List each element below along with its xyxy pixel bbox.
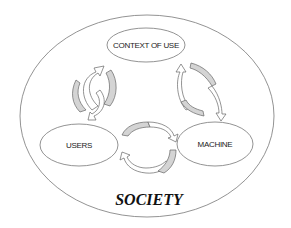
society-label: SOCIETY	[115, 191, 184, 208]
users-label: USERS	[66, 141, 92, 150]
diagram-canvas: CONTEXT OF USE USERS MACHINE SOCIETY	[0, 0, 291, 228]
context-of-use-label: CONTEXT OF USE	[113, 41, 179, 50]
machine-label: MACHINE	[198, 140, 233, 149]
